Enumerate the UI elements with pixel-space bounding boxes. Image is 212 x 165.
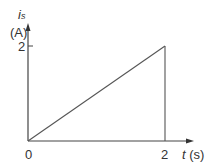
x-axis-arrow-icon <box>186 139 194 144</box>
x-tick-label-2: 2 <box>161 148 168 161</box>
current-waveform-diagram: is (A) 2 0 2 t (s) <box>0 0 212 165</box>
x-tick-label-0: 0 <box>25 148 32 161</box>
y-axis-variable: is <box>18 8 25 23</box>
y-tick-label-2: 2 <box>18 40 25 53</box>
ramp-line <box>28 46 165 141</box>
y-var-subscript: s <box>21 11 26 21</box>
x-unit: (s) <box>189 147 204 162</box>
x-var: t <box>182 147 186 162</box>
x-axis-label: t (s) <box>182 148 204 161</box>
plot-area <box>0 0 212 165</box>
y-axis-unit: (A) <box>10 26 27 39</box>
